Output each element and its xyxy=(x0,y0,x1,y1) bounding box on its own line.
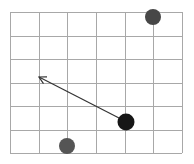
gray-dot-top-right xyxy=(145,9,161,25)
grid-lines xyxy=(10,12,183,154)
black-dot-agent xyxy=(118,114,135,131)
gray-dot-bottom xyxy=(59,138,75,154)
direction-arrow xyxy=(39,77,119,118)
grid-board xyxy=(0,0,194,164)
pieces-layer xyxy=(59,9,161,154)
